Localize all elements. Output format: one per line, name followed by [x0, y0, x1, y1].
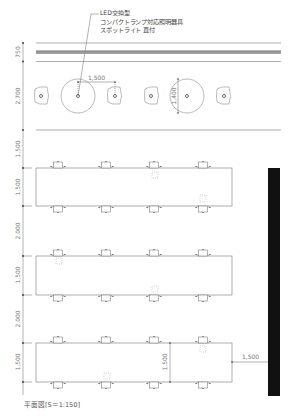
table-depth-dimension [169, 342, 171, 383]
dim-fixture-diameter: 1,400 [170, 87, 177, 104]
dim-1500-a: 1,500 [14, 140, 21, 157]
table-3 [36, 343, 232, 382]
table-1 [36, 168, 232, 206]
drawing-caption: 平面図[S＝1:150] [24, 399, 80, 409]
dim-750: 750 [14, 46, 21, 58]
dim-1500-c: 1,500 [14, 266, 21, 283]
dashed-chairs [56, 172, 206, 379]
wall-block [268, 168, 280, 396]
spotlight-icon [35, 87, 49, 105]
dim-2000-a: 2,000 [14, 222, 21, 239]
dim-1500-b: 1,500 [14, 178, 21, 195]
lighting-fixtures [35, 78, 231, 114]
tables [36, 168, 232, 382]
annotation-leader [78, 14, 99, 96]
dim-fixture-spacing: 1,500 [88, 74, 105, 81]
spotlight-icon [217, 87, 231, 105]
annotation-line-1: LED交換型 [100, 9, 183, 18]
dim-table-depth: 1,500 [161, 353, 168, 370]
spotlight-icon [145, 87, 159, 105]
dim-2000-b: 2,000 [14, 310, 21, 327]
dim-2700: 2,700 [14, 87, 21, 104]
annotation-line-2: コンパクトランプ対応照明器具 [100, 18, 183, 27]
dim-1500-d: 1,500 [14, 353, 21, 370]
dimension-labels-left: 750 2,700 1,500 1,500 2,000 1,500 2,000 … [14, 46, 21, 371]
ceiling-rails [36, 43, 281, 130]
annotation-line-3: スポットライト 直付 [100, 26, 183, 35]
floor-plan-drawing: 750 2,700 1,500 1,500 2,000 1,500 2,000 … [0, 0, 290, 420]
dimension-chain-left [22, 42, 32, 395]
table-2 [36, 256, 232, 295]
fixture-annotation: LED交換型 コンパクトランプ対応照明器具 スポットライト 直付 [100, 9, 183, 35]
aisle-dimension [231, 361, 268, 363]
dim-aisle: 1,500 [242, 353, 259, 360]
spotlight-icon [108, 87, 122, 105]
chairs [50, 161, 210, 389]
